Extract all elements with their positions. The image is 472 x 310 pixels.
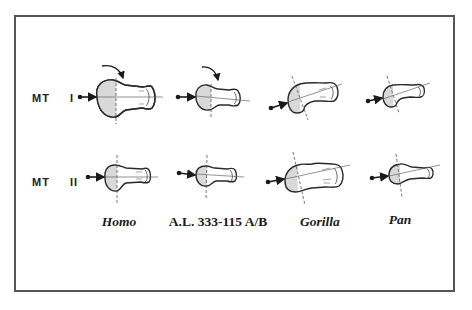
homo-mt1-bone [78, 66, 163, 124]
al333-mt2-bone [177, 155, 244, 200]
gorilla-mt1-bone [269, 76, 342, 120]
gorilla-mt2-bone [266, 152, 350, 205]
pan-mt1-bone [366, 76, 430, 113]
homo-mt2-bone [86, 155, 158, 205]
metatarsal-illustrations [0, 0, 472, 310]
al333-mt1-bone [176, 67, 250, 118]
pan-mt2-bone [370, 154, 440, 197]
